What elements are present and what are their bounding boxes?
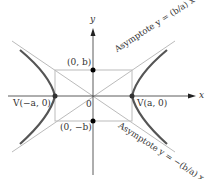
point-co-vertex-top (91, 68, 96, 73)
point-vertex-right (130, 94, 135, 99)
point-vertex-left (53, 94, 58, 99)
hyperbola-diagram: y x 0 (0, b) (0, −b) V(−a, 0) V(a, 0) As… (0, 0, 216, 179)
x-axis-label: x (199, 90, 204, 100)
hyperbola-left-branch (20, 50, 55, 144)
co-vertex-bottom-label: (0, −b) (60, 122, 92, 132)
vertex-left-label: V(−a, 0) (13, 98, 51, 108)
co-vertex-top-label: (0, b) (67, 57, 91, 67)
y-axis-label: y (90, 14, 95, 24)
y-axis-arrow-icon (91, 28, 96, 36)
x-axis-arrow-icon (188, 94, 196, 99)
vertex-right-label: V(a, 0) (137, 98, 167, 108)
origin-label: 0 (86, 99, 92, 109)
hyperbola-graph (0, 0, 216, 179)
